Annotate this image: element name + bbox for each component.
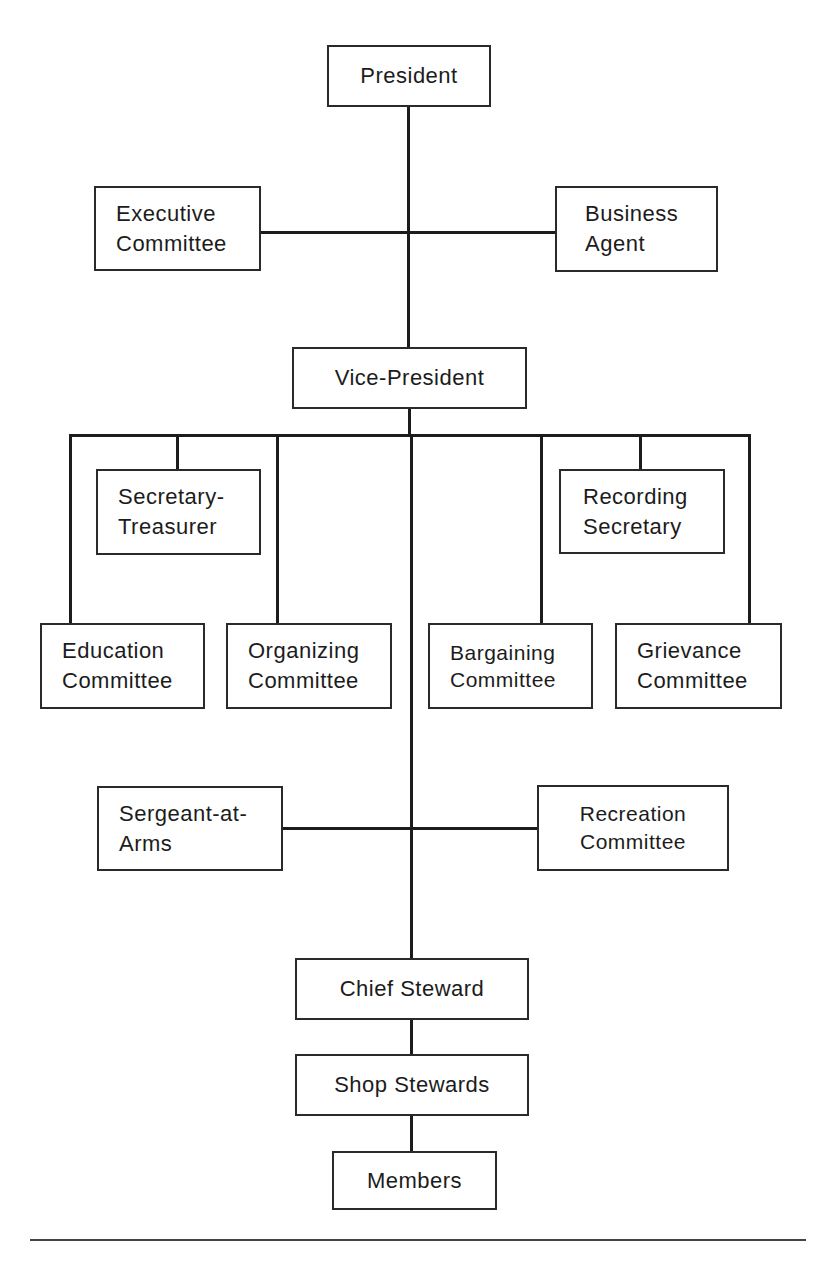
node-label: Committee — [580, 828, 686, 856]
node-label: Recreation — [580, 800, 687, 828]
connector-organizing — [276, 434, 279, 624]
node-sergeant-at-arms: Sergeant-at- Arms — [97, 786, 283, 871]
connector-chief-shop — [410, 1018, 413, 1055]
node-label: Agent — [585, 229, 645, 259]
node-label: Treasurer — [118, 512, 217, 542]
node-recording-secretary: Recording Secretary — [559, 469, 725, 554]
node-label: President — [360, 61, 457, 91]
node-recreation-committee: Recreation Committee — [537, 785, 729, 871]
node-shop-stewards: Shop Stewards — [295, 1054, 529, 1116]
node-label: Sergeant-at- — [119, 799, 247, 829]
node-organizing-committee: Organizing Committee — [226, 623, 392, 709]
node-education-committee: Education Committee — [40, 623, 205, 709]
node-label: Organizing — [248, 636, 359, 666]
node-label: Secretary- — [118, 482, 224, 512]
node-label: Arms — [119, 829, 172, 859]
connector-education — [69, 434, 72, 624]
node-label: Executive — [116, 199, 216, 229]
connector-executive-business — [259, 231, 556, 234]
connector-shop-members — [410, 1114, 413, 1152]
node-label: Committee — [116, 229, 227, 259]
node-label: Shop Stewards — [334, 1070, 490, 1100]
node-label: Committee — [62, 666, 173, 696]
node-label: Committee — [248, 666, 359, 696]
bottom-rule-divider — [30, 1239, 806, 1241]
node-executive-committee: Executive Committee — [94, 186, 261, 271]
node-president: President — [327, 45, 491, 107]
node-label: Secretary — [583, 512, 682, 542]
node-label: Chief Steward — [340, 974, 485, 1004]
node-members: Members — [332, 1151, 497, 1210]
node-bargaining-committee: Bargaining Committee — [428, 623, 593, 709]
node-grievance-committee: Grievance Committee — [615, 623, 782, 709]
connector-recording-secretary — [639, 434, 642, 470]
node-label: Vice-President — [335, 363, 485, 393]
node-label: Members — [367, 1166, 462, 1196]
connector-president-vp — [407, 106, 410, 349]
node-label: Grievance — [637, 636, 742, 666]
node-label: Bargaining — [450, 639, 555, 666]
node-label: Business — [585, 199, 678, 229]
node-label: Committee — [637, 666, 748, 696]
connector-secretary-treasurer — [176, 434, 179, 470]
node-vice-president: Vice-President — [292, 347, 527, 409]
node-secretary-treasurer: Secretary- Treasurer — [96, 469, 261, 555]
node-chief-steward: Chief Steward — [295, 958, 529, 1020]
connector-vp-trunk — [408, 407, 411, 437]
node-label: Recording — [583, 482, 688, 512]
connector-bargaining — [540, 434, 543, 624]
connector-main-trunk — [410, 434, 413, 959]
node-business-agent: Business Agent — [555, 186, 718, 272]
connector-sergeant-recreation — [281, 827, 538, 830]
node-label: Committee — [450, 666, 556, 693]
connector-grievance — [748, 434, 751, 624]
node-label: Education — [62, 636, 164, 666]
